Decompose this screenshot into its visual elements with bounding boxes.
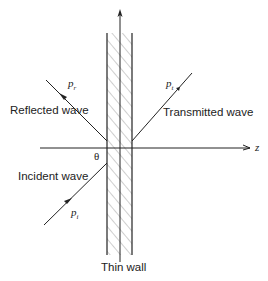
reflected-pressure-symbol: pr	[68, 77, 76, 92]
transmitted-pressure-symbol: pt	[166, 77, 173, 92]
transmitted-wave-label: Transmitted wave	[163, 106, 253, 118]
incident-arrow-icon	[64, 198, 72, 204]
incident-wave-label: Incident wave	[18, 170, 88, 182]
thin-wall-label: Thin wall	[101, 261, 146, 273]
angle-theta-label: θ	[94, 150, 99, 162]
thin-wall-diagram	[0, 0, 268, 281]
reflected-arrow-icon	[59, 93, 67, 100]
reflected-wave-label: Reflected wave	[10, 104, 89, 116]
z-axis-label: z	[255, 141, 259, 153]
incident-pressure-symbol: pi	[71, 206, 78, 221]
